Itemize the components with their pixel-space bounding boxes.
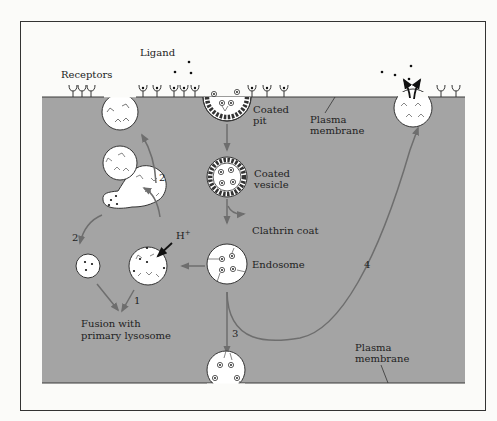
plasma-membrane-bottom-label-2: membrane <box>355 353 409 364</box>
pathway-4: 4 <box>364 259 370 270</box>
endosome-label: Endosome <box>252 259 305 270</box>
recycling-vesicle-mid <box>103 146 137 180</box>
coated-vesicle-label: Coated <box>254 168 291 179</box>
receptors-label: Receptors <box>61 69 112 80</box>
endocytosis-diagram: Ligand Receptors Coated pit Plasma membr… <box>0 0 497 421</box>
pathway-2-lower: 2 <box>72 232 78 243</box>
coated-pit-label: Coated <box>253 104 290 115</box>
plasma-membrane-bottom-label: Plasma <box>355 342 392 353</box>
pathway-3: 3 <box>232 328 238 339</box>
fusion-label: Fusion with <box>81 318 141 329</box>
plasma-membrane-top-label-2: membrane <box>310 125 364 136</box>
ligand-dots <box>174 61 193 75</box>
small-ligand-vesicle <box>76 254 100 278</box>
fusion-label-2: primary lysosome <box>81 330 171 341</box>
basal-vesicle <box>207 351 245 394</box>
endosome <box>207 244 247 284</box>
pathway-1: 1 <box>134 295 140 306</box>
coated-pit-label-2: pit <box>253 115 267 126</box>
receptors-right <box>437 85 460 97</box>
receptors-bound <box>139 85 288 97</box>
coated-vesicle-label-2: vesicle <box>253 179 289 190</box>
receptors-empty <box>69 85 95 97</box>
coated-vesicle <box>207 157 247 197</box>
pathway-2-upper: 2 <box>159 172 165 183</box>
ligand-label: Ligand <box>140 47 176 58</box>
plasma-membrane-top-label: Plasma <box>310 114 347 125</box>
clathrin-coat-label: Clathrin coat <box>252 225 318 236</box>
